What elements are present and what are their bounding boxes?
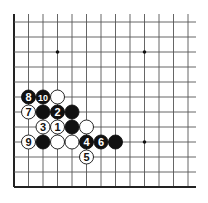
white-stone-icon xyxy=(51,135,65,149)
move-number-label: 1 xyxy=(54,121,60,133)
star-point-icon xyxy=(56,50,60,54)
black-stone-icon xyxy=(65,105,79,119)
white-stone: 5 xyxy=(80,150,94,164)
black-stone: 10 xyxy=(36,90,50,104)
white-stone-icon xyxy=(65,135,79,149)
move-number-label: 2 xyxy=(54,106,60,118)
white-stone xyxy=(65,135,79,149)
white-stone: 9 xyxy=(22,135,36,149)
black-stone-icon xyxy=(109,135,123,149)
black-stone xyxy=(65,105,79,119)
black-stone: 6 xyxy=(94,135,108,149)
move-number-label: 4 xyxy=(83,136,90,148)
star-point-icon xyxy=(143,50,147,54)
white-stone: 1 xyxy=(51,120,65,134)
move-number-label: 7 xyxy=(25,106,31,118)
black-stone: 4 xyxy=(80,135,94,149)
black-stone: 8 xyxy=(22,90,36,104)
black-stone xyxy=(36,135,50,149)
move-number-label: 8 xyxy=(25,91,31,103)
black-stone xyxy=(109,135,123,149)
black-stone-icon xyxy=(65,120,79,134)
white-stone xyxy=(80,120,94,134)
white-stone xyxy=(51,90,65,104)
white-stone xyxy=(51,135,65,149)
move-number-label: 5 xyxy=(83,151,89,163)
black-stone xyxy=(36,105,50,119)
move-number-label: 10 xyxy=(38,93,48,103)
white-stone-icon xyxy=(51,90,65,104)
move-number-label: 6 xyxy=(98,136,104,148)
white-stone: 7 xyxy=(22,105,36,119)
white-stone: 3 xyxy=(36,120,50,134)
black-stone-icon xyxy=(36,105,50,119)
black-stone: 2 xyxy=(51,105,65,119)
move-number-label: 9 xyxy=(25,136,31,148)
white-stone-icon xyxy=(80,120,94,134)
black-stone-icon xyxy=(36,135,50,149)
move-number-label: 3 xyxy=(40,121,46,133)
star-point-icon xyxy=(143,140,147,144)
go-board: 81072319465 xyxy=(0,0,208,203)
black-stone xyxy=(65,120,79,134)
